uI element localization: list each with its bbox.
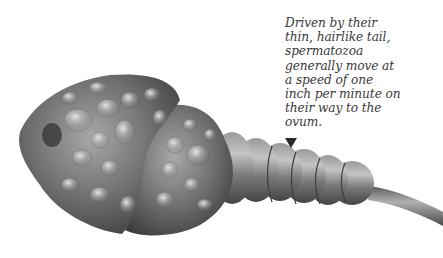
down-triangle-icon [285, 138, 297, 148]
tail [368, 186, 443, 226]
caption-text: Driven by their thin, hairlike tail, spe… [285, 16, 443, 130]
